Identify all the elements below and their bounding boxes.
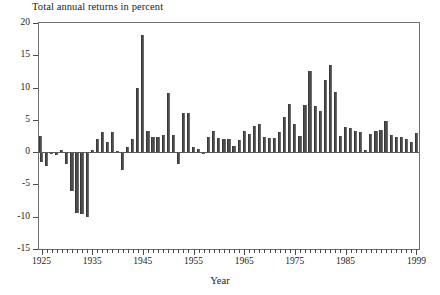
- x-axis-minor-tick: [168, 249, 169, 253]
- x-axis-minor-tick: [199, 249, 200, 253]
- x-axis-minor-tick: [148, 249, 149, 253]
- bar: [344, 127, 347, 152]
- bar: [410, 142, 413, 152]
- x-axis-minor-tick: [82, 249, 83, 253]
- x-axis-label: Year: [0, 275, 440, 286]
- x-axis-major-tick: [92, 249, 93, 255]
- x-axis-minor-tick: [249, 249, 250, 253]
- bar: [39, 136, 42, 152]
- bar: [319, 111, 322, 152]
- x-axis-tick-label: 1965: [235, 256, 254, 266]
- x-axis-major-tick: [42, 249, 43, 255]
- x-axis-major-tick: [295, 249, 296, 255]
- x-axis-minor-tick: [381, 249, 382, 253]
- x-axis-minor-tick: [315, 249, 316, 253]
- x-axis-minor-tick: [209, 249, 210, 253]
- bar: [75, 152, 78, 213]
- bar: [369, 134, 372, 152]
- bar: [374, 131, 377, 152]
- bar: [156, 137, 159, 152]
- x-axis-minor-tick: [406, 249, 407, 253]
- bar: [222, 139, 225, 152]
- bar: [268, 138, 271, 152]
- x-axis-minor-tick: [391, 249, 392, 253]
- bar: [172, 135, 175, 152]
- x-axis-minor-tick: [224, 249, 225, 253]
- bar: [278, 132, 281, 152]
- x-axis-tick-label: 1925: [32, 256, 51, 266]
- bar: [136, 88, 139, 152]
- bar: [101, 132, 104, 152]
- bar: [131, 139, 134, 153]
- bar: [415, 133, 418, 152]
- x-axis-tick-label: 1985: [336, 256, 355, 266]
- x-axis-minor-tick: [411, 249, 412, 253]
- x-axis-minor-tick: [290, 249, 291, 253]
- bar: [329, 65, 332, 152]
- bar: [177, 152, 180, 164]
- x-axis-major-tick: [143, 249, 144, 255]
- x-axis-minor-tick: [234, 249, 235, 253]
- x-axis-minor-tick: [351, 249, 352, 253]
- bar: [314, 106, 317, 152]
- x-axis-minor-tick: [47, 249, 48, 253]
- bar: [80, 152, 83, 214]
- x-axis-minor-tick: [67, 249, 68, 253]
- x-axis-minor-tick: [305, 249, 306, 253]
- x-axis-minor-tick: [204, 249, 205, 253]
- bar: [151, 137, 154, 152]
- x-axis-minor-tick: [401, 249, 402, 253]
- bar: [217, 138, 220, 152]
- x-axis-minor-tick: [366, 249, 367, 253]
- bar: [390, 135, 393, 152]
- x-axis-minor-tick: [361, 249, 362, 253]
- x-axis-minor-tick: [219, 249, 220, 253]
- bar: [303, 105, 306, 152]
- bar: [400, 137, 403, 152]
- x-axis-minor-tick: [123, 249, 124, 253]
- y-axis-tick-label: 15: [0, 50, 30, 60]
- bar: [293, 124, 296, 152]
- x-axis-minor-tick: [118, 249, 119, 253]
- bar: [248, 134, 251, 152]
- x-axis-tick-label: 1999: [407, 256, 426, 266]
- bar: [273, 138, 276, 152]
- y-axis-tick-label: 20: [0, 18, 30, 28]
- x-axis-minor-tick: [254, 249, 255, 253]
- x-axis-minor-tick: [340, 249, 341, 253]
- x-axis-minor-tick: [153, 249, 154, 253]
- x-axis-minor-tick: [396, 249, 397, 253]
- bar: [182, 113, 185, 152]
- x-axis-minor-tick: [386, 249, 387, 253]
- bar: [395, 137, 398, 152]
- bar: [212, 131, 215, 152]
- bar: [238, 140, 241, 152]
- x-axis-minor-tick: [214, 249, 215, 253]
- bar: [146, 131, 149, 152]
- x-axis-minor-tick: [330, 249, 331, 253]
- x-axis-minor-tick: [72, 249, 73, 253]
- zero-baseline: [39, 152, 419, 153]
- y-axis-tick-label: -15: [0, 244, 30, 254]
- x-axis-tick-label: 1935: [83, 256, 102, 266]
- x-axis-minor-tick: [259, 249, 260, 253]
- x-axis-minor-tick: [158, 249, 159, 253]
- x-axis-major-tick: [416, 249, 417, 255]
- x-axis-minor-tick: [183, 249, 184, 253]
- x-axis-minor-tick: [335, 249, 336, 253]
- x-axis-major-tick: [194, 249, 195, 255]
- x-axis-minor-tick: [356, 249, 357, 253]
- bar: [263, 137, 266, 152]
- x-axis-minor-tick: [270, 249, 271, 253]
- x-axis-minor-tick: [178, 249, 179, 253]
- bar: [40, 152, 43, 162]
- bar: [45, 152, 48, 166]
- x-axis-minor-tick: [280, 249, 281, 253]
- bar: [359, 132, 362, 152]
- x-axis-minor-tick: [264, 249, 265, 253]
- x-axis-minor-tick: [133, 249, 134, 253]
- bar: [405, 139, 408, 153]
- x-axis-minor-tick: [77, 249, 78, 253]
- x-axis-minor-tick: [229, 249, 230, 253]
- bar: [288, 104, 291, 152]
